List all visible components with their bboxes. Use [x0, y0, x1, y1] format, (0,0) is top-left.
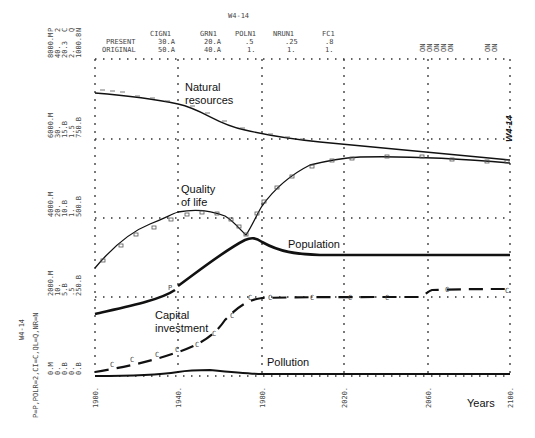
x-axis-label: Years: [467, 397, 495, 409]
svg-text:500.B: 500.B: [75, 196, 83, 217]
present-fc1: .8: [325, 38, 333, 46]
present-nrun1: .25: [285, 38, 298, 46]
params-table: CIGN1 GRN1 POLN1 NRUN1 FC1 PRESENT 30.A …: [102, 30, 335, 54]
svg-text:C: C: [110, 361, 114, 369]
svg-text:P: P: [168, 284, 172, 292]
svg-text:ON: ON: [447, 44, 455, 52]
run-id-header: W4-14: [228, 12, 249, 20]
row-present-label: PRESENT: [106, 38, 136, 46]
series-natural-resources: [95, 93, 510, 160]
svg-text:C: C: [385, 294, 389, 302]
y-scale-row-2: 4000.M 20. 10.B 1. 500.B: [47, 192, 83, 217]
original-poln1: 1.: [247, 46, 255, 54]
svg-text:C: C: [445, 286, 449, 294]
world-model-chart: W4-14 CIGN1 GRN1 POLN1 NRUN1 FC1 PRESENT…: [0, 0, 535, 438]
col-cign1: CIGN1: [150, 30, 171, 38]
label-pollution: Pollution: [267, 356, 309, 368]
svg-text:1900.: 1900.: [92, 387, 100, 408]
original-fc1: 1.: [325, 46, 333, 54]
svg-text:1940.: 1940.: [175, 387, 183, 408]
row-original-label: ORIGINAL: [102, 46, 136, 54]
present-cign1: 30.A: [158, 38, 176, 46]
original-grn1: 40.A: [204, 46, 222, 54]
svg-text:750.B: 750.B: [75, 117, 83, 138]
side-run-id: W4-14: [18, 319, 26, 340]
svg-text:0.B: 0.B: [75, 362, 83, 375]
present-poln1: .5: [245, 38, 253, 46]
y-scale-row-3: 2000.M 10. 5.B .5 250.B: [47, 271, 83, 296]
svg-text:C: C: [230, 312, 234, 320]
handwritten-note: W4-14: [504, 115, 514, 142]
label-natural-resources: Naturalresources: [185, 81, 234, 106]
svg-text:C: C: [310, 294, 314, 302]
svg-text:C: C: [195, 341, 199, 349]
y-scale-row-1: 6000.M 30. 15.B 1.5 750.B: [47, 113, 83, 138]
col-nrun1: NRUN1: [273, 30, 294, 38]
svg-text:2060.: 2060.: [425, 387, 433, 408]
top-right-marks: ON ON ON ON ON ON ON: [419, 44, 499, 52]
svg-text:C: C: [268, 294, 272, 302]
y-scale-row-0: 8000.M 40. 20.3 2. 1000.8 P 2 C Q N: [47, 28, 83, 58]
svg-text:250.B: 250.B: [75, 275, 83, 296]
series-quality-of-life: [95, 157, 510, 268]
col-poln1: POLN1: [235, 30, 256, 38]
svg-text:N: N: [75, 28, 83, 32]
svg-text:2020.: 2020.: [341, 387, 349, 408]
svg-text:C: C: [212, 330, 216, 338]
svg-text:C: C: [130, 356, 134, 364]
svg-text:2100.: 2100.: [507, 387, 515, 408]
svg-text:C: C: [248, 294, 252, 302]
svg-text:ON: ON: [491, 44, 499, 52]
col-fc1: FC1: [322, 30, 335, 38]
present-grn1: 20.A: [204, 38, 222, 46]
original-cign1: 50.A: [158, 46, 176, 54]
svg-text:1000.8: 1000.8: [75, 33, 83, 58]
svg-text:C: C: [348, 294, 352, 302]
annotations: Naturalresources Qualityof life Populati…: [155, 81, 340, 368]
label-capital-investment: Capitalinvestment: [155, 309, 208, 334]
svg-text:1980.: 1980.: [259, 387, 267, 408]
svg-text:C: C: [175, 346, 179, 354]
label-quality-of-life: Qualityof life: [181, 183, 216, 208]
col-grn1: GRN1: [200, 30, 217, 38]
y-scale-row-4: 0.M 0. 0.B 0. 0.B: [47, 362, 83, 375]
series-pollution: [95, 370, 510, 376]
legend-key: P=P,POLR=2,CI=C,QL=Q,NR=N: [32, 313, 40, 418]
svg-text:C: C: [505, 287, 509, 295]
x-axis: 1900. 1940. 1980. 2020. 2060. 2100. Year…: [92, 387, 515, 409]
svg-text:C: C: [155, 351, 159, 359]
series-population-2: [178, 238, 510, 286]
label-population: Population: [288, 238, 340, 250]
original-nrun1: 1.: [287, 46, 295, 54]
